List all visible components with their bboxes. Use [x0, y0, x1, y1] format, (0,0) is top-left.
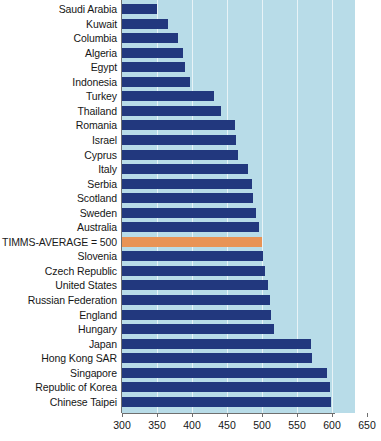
category-label: United States: [55, 278, 117, 292]
x-tick-label: 350: [137, 419, 177, 431]
category-label: Egypt: [91, 60, 117, 74]
x-tick-label: 500: [242, 419, 282, 431]
category-label: TIMMS-AVERAGE = 500: [2, 235, 117, 249]
bar: [122, 33, 178, 43]
category-label: Czech Republic: [45, 264, 117, 278]
bar: [122, 179, 252, 189]
category-label: Cyprus: [84, 148, 117, 162]
x-tick-500: [262, 413, 263, 417]
bar: [122, 397, 331, 407]
x-tick-label: 400: [172, 419, 212, 431]
x-tick-label: 450: [207, 419, 247, 431]
bar: [122, 120, 235, 130]
bar: [122, 222, 259, 232]
x-tick-650: [367, 413, 368, 417]
gridline-500: [262, 0, 263, 413]
x-tick-400: [192, 413, 193, 417]
bar: [122, 324, 274, 334]
bar: [122, 164, 248, 174]
category-label: Thailand: [78, 104, 117, 118]
x-tick-600: [332, 413, 333, 417]
category-label: Chinese Taipei: [50, 395, 117, 409]
bar: [122, 353, 312, 363]
bar: [122, 19, 168, 29]
x-tick-label: 650: [347, 419, 381, 431]
category-label: Israel: [92, 133, 117, 147]
category-label: Japan: [89, 337, 117, 351]
category-label: Republic of Korea: [35, 380, 117, 394]
bar: [122, 310, 271, 320]
bar: [122, 280, 268, 290]
x-tick-450: [227, 413, 228, 417]
bar: [122, 237, 262, 247]
bar: [122, 135, 236, 145]
x-tick-label: 550: [277, 419, 317, 431]
gridline-600: [332, 0, 333, 413]
category-label: Sweden: [80, 206, 117, 220]
x-tick-300: [122, 413, 123, 417]
category-label: Kuwait: [86, 17, 117, 31]
category-label: Singapore: [70, 366, 117, 380]
category-label: Romania: [76, 118, 117, 132]
category-label: Serbia: [87, 177, 117, 191]
bar: [122, 368, 327, 378]
category-label: Australia: [77, 220, 117, 234]
bar: [122, 48, 183, 58]
bar: [122, 106, 221, 116]
y-axis-line: [121, 0, 122, 413]
bar: [122, 295, 270, 305]
category-label: Scotland: [77, 191, 117, 205]
x-axis-line: [122, 413, 335, 414]
bar: [122, 193, 253, 203]
bar: [122, 339, 311, 349]
bar: [122, 382, 330, 392]
category-label: Russian Federation: [28, 293, 117, 307]
bar: [122, 91, 214, 101]
x-axis: 300350400450500550600650: [0, 413, 355, 441]
category-label: Indonesia: [72, 75, 117, 89]
category-label: Columbia: [73, 31, 117, 45]
category-label: Hong Kong SAR: [41, 351, 117, 365]
category-label: Turkey: [86, 89, 117, 103]
plot-area: [122, 0, 334, 413]
category-label: Saudi Arabia: [59, 2, 117, 16]
bar: [122, 4, 157, 14]
bar: [122, 266, 265, 276]
bar: [122, 77, 190, 87]
gridline-550: [297, 0, 298, 413]
gridline-450: [227, 0, 228, 413]
bar: [122, 62, 185, 72]
x-tick-550: [297, 413, 298, 417]
plot-area-right-padding: [334, 0, 355, 413]
category-label: Slovenia: [78, 249, 117, 263]
gridline-400: [192, 0, 193, 413]
x-tick-350: [157, 413, 158, 417]
bar: [122, 251, 263, 261]
bar: [122, 208, 256, 218]
category-label: Algeria: [85, 46, 117, 60]
bar: [122, 150, 238, 160]
x-tick-label: 600: [312, 419, 352, 431]
category-label: Italy: [98, 162, 117, 176]
x-tick-label: 300: [102, 419, 142, 431]
category-label: Hungary: [78, 322, 117, 336]
category-label: England: [79, 308, 117, 322]
category-label-column: Saudi ArabiaKuwaitColumbiaAlgeriaEgyptIn…: [0, 0, 120, 413]
